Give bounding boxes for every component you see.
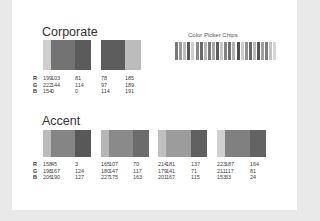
- corporate-value-r: 81: [75, 75, 81, 81]
- accent-value-g: 124: [75, 168, 84, 174]
- color-chip[interactable]: [249, 42, 252, 60]
- color-chip[interactable]: [224, 42, 227, 60]
- color-chip[interactable]: [257, 42, 260, 60]
- row-label-b: B: [33, 88, 37, 94]
- row-label-b: B: [33, 174, 37, 180]
- accent-value-g: 117: [225, 168, 234, 174]
- accent-swatch[interactable]: [75, 130, 91, 157]
- color-chip[interactable]: [187, 42, 190, 60]
- accent-value-g: 81: [250, 168, 256, 174]
- color-chip[interactable]: [175, 42, 178, 60]
- color-chip[interactable]: [191, 42, 194, 60]
- accent-value-b: 33: [225, 174, 231, 180]
- corporate-value-b: 191: [125, 88, 134, 94]
- color-chip[interactable]: [220, 42, 223, 60]
- accent-swatch[interactable]: [250, 130, 266, 157]
- corporate-swatch[interactable]: [51, 40, 75, 70]
- accent-swatch[interactable]: [109, 130, 133, 157]
- accent-swatch[interactable]: [217, 130, 225, 157]
- corporate-swatch[interactable]: [75, 40, 91, 70]
- accent-value-r: 45: [51, 161, 57, 167]
- accent-value-b: 127: [75, 174, 84, 180]
- accent-swatch[interactable]: [158, 130, 166, 157]
- accent-value-b: 115: [191, 174, 200, 180]
- corporate-value-g: 114: [75, 82, 84, 88]
- corporate-value-g: 97: [101, 82, 107, 88]
- color-chip[interactable]: [241, 42, 244, 60]
- accent-value-g: 167: [51, 168, 60, 174]
- accent-swatch[interactable]: [133, 130, 149, 157]
- accent-value-r: 107: [109, 161, 118, 167]
- accent-value-g: 141: [166, 168, 175, 174]
- accent-value-b: 190: [51, 174, 60, 180]
- color-chip[interactable]: [179, 42, 182, 60]
- corporate-value-g: 144: [51, 82, 60, 88]
- color-chip[interactable]: [196, 42, 199, 60]
- corporate-swatch[interactable]: [43, 40, 51, 70]
- corporate-swatch[interactable]: [125, 40, 141, 70]
- accent-value-g: 117: [133, 168, 142, 174]
- color-chip[interactable]: [183, 42, 186, 60]
- accent-value-r: 70: [133, 161, 139, 167]
- color-chip[interactable]: [204, 42, 207, 60]
- corporate-value-b: 114: [101, 88, 110, 94]
- row-label-g: G: [33, 82, 37, 88]
- accent-title: Accent: [42, 114, 80, 128]
- chips-title: Color Picker Chips: [188, 32, 238, 38]
- color-chip[interactable]: [212, 42, 215, 60]
- accent-value-b: 175: [109, 174, 118, 180]
- corporate-value-g: 189: [125, 82, 134, 88]
- accent-value-b: 24: [250, 174, 256, 180]
- accent-value-g: 71: [191, 168, 197, 174]
- accent-value-r: 164: [250, 161, 259, 167]
- color-chip[interactable]: [208, 42, 211, 60]
- accent-swatch[interactable]: [166, 130, 191, 157]
- color-chip[interactable]: [265, 42, 268, 60]
- accent-value-r: 187: [225, 161, 234, 167]
- color-chip[interactable]: [200, 42, 203, 60]
- corporate-swatch[interactable]: [101, 40, 125, 70]
- corporate-value-b: 0: [75, 88, 78, 94]
- color-chip[interactable]: [245, 42, 248, 60]
- accent-value-g: 147: [109, 168, 118, 174]
- accent-swatch[interactable]: [51, 130, 75, 157]
- color-chip[interactable]: [232, 42, 235, 60]
- color-chip[interactable]: [261, 42, 264, 60]
- row-label-r: R: [33, 75, 37, 81]
- color-chip[interactable]: [273, 42, 276, 60]
- color-chip[interactable]: [237, 42, 240, 60]
- accent-value-b: 167: [166, 174, 175, 180]
- accent-swatch[interactable]: [43, 130, 51, 157]
- corporate-value-r: 78: [101, 75, 107, 81]
- accent-value-r: 137: [191, 161, 200, 167]
- row-label-r: R: [33, 161, 37, 167]
- accent-value-r: 3: [75, 161, 78, 167]
- row-label-g: G: [33, 168, 37, 174]
- accent-swatch[interactable]: [191, 130, 207, 157]
- color-chip[interactable]: [269, 42, 272, 60]
- color-chip[interactable]: [216, 42, 219, 60]
- corporate-value-b: 0: [51, 88, 54, 94]
- color-chip[interactable]: [253, 42, 256, 60]
- color-chip[interactable]: [228, 42, 231, 60]
- accent-swatch[interactable]: [101, 130, 109, 157]
- accent-value-b: 163: [133, 174, 142, 180]
- accent-swatch[interactable]: [225, 130, 250, 157]
- corporate-value-r: 185: [125, 75, 134, 81]
- corporate-value-r: 103: [51, 75, 60, 81]
- accent-value-r: 181: [166, 161, 175, 167]
- corporate-title: Corporate: [42, 25, 98, 39]
